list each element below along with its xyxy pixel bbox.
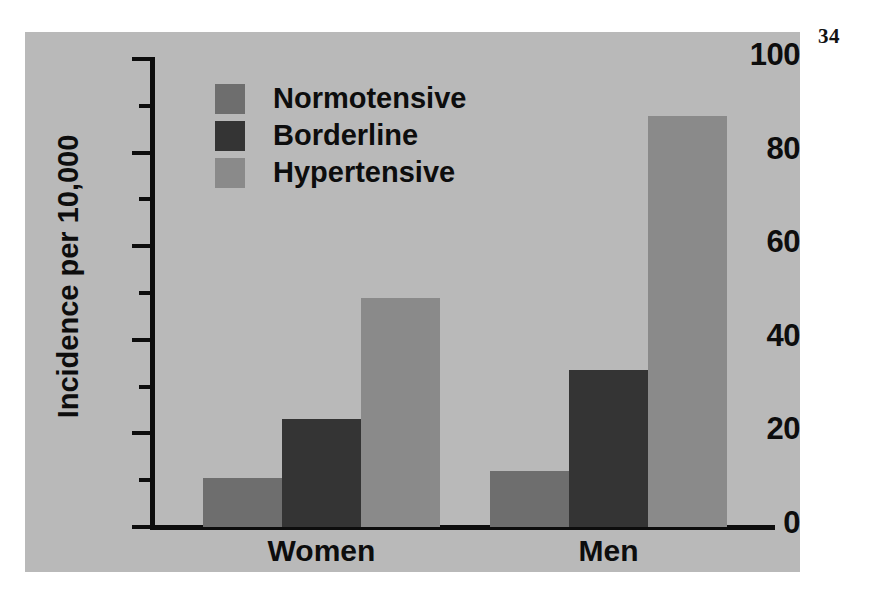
bar-normotensive-men [490, 471, 569, 527]
plot-area: 020406080100 Incidence per 10,000 WomenM… [25, 32, 800, 572]
legend-swatch-icon [215, 158, 245, 188]
legend-label: Hypertensive [273, 156, 455, 189]
y-axis-tick-minor [139, 291, 155, 295]
y-axis-tick-label: 100 [695, 37, 800, 73]
bar-hypertensive-women [361, 298, 440, 527]
y-axis-tick-major [132, 57, 155, 61]
y-axis-tick-minor [139, 385, 155, 389]
legend-label: Normotensive [273, 82, 466, 115]
y-axis-tick-major [132, 244, 155, 248]
chart-legend: NormotensiveBorderlineHypertensive [215, 80, 466, 191]
x-axis-group-label-men: Men [490, 534, 727, 568]
legend-swatch-icon [215, 121, 245, 151]
bar-hypertensive-men [648, 116, 727, 527]
legend-item-borderline: Borderline [215, 117, 466, 154]
bar-borderline-men [569, 370, 648, 527]
y-axis-tick-major [132, 151, 155, 155]
x-axis-group-label-women: Women [203, 534, 440, 568]
y-axis-tick-minor [139, 197, 155, 201]
y-axis-tick-major [132, 338, 155, 342]
page-number: 34 [818, 24, 840, 49]
bar-borderline-women [282, 419, 361, 527]
legend-swatch-icon [215, 84, 245, 114]
bar-normotensive-women [203, 478, 282, 527]
legend-label: Borderline [273, 119, 418, 152]
y-axis-tick-minor [139, 104, 155, 108]
figure-panel: 020406080100 Incidence per 10,000 WomenM… [25, 32, 800, 572]
y-axis-tick-major [132, 525, 155, 529]
y-axis-tick-minor [139, 478, 155, 482]
legend-item-normotensive: Normotensive [215, 80, 466, 117]
legend-item-hypertensive: Hypertensive [215, 154, 466, 191]
y-axis-title: Incidence per 10,000 [52, 67, 85, 487]
y-axis-tick-major [132, 431, 155, 435]
